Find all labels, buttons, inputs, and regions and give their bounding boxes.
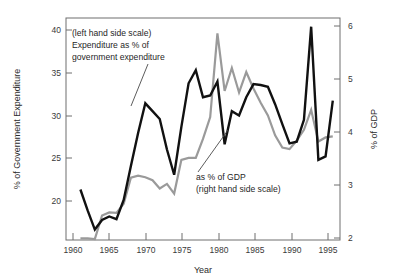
chart-svg: 40 35 30 25 20 6 5 4 3 2 (0, 0, 394, 280)
left-annot-leader-line (131, 64, 148, 106)
x-tick-label-1965: 1965 (100, 245, 119, 255)
series-line-gdp (80, 33, 332, 239)
right-tick-label-4: 4 (348, 127, 353, 137)
left-tick-label-20: 20 (52, 196, 62, 206)
left-annot-line-2: Expenditure as % of (72, 40, 150, 50)
left-scale-annotation: (left hand side scale) Expenditure as % … (72, 28, 165, 106)
right-tick-label-5: 5 (348, 74, 353, 84)
left-tick-label-25: 25 (52, 153, 62, 163)
x-tick-label-1960: 1960 (64, 245, 83, 255)
x-tick-label-1995: 1995 (319, 245, 338, 255)
x-axis-ticks (73, 233, 328, 240)
left-tick-label-40: 40 (52, 25, 62, 35)
right-axis-tick-labels: 6 5 4 3 2 (348, 21, 353, 243)
right-tick-label-6: 6 (348, 21, 353, 31)
right-scale-annotation: as % of GDP (right hand side scale) (196, 130, 281, 194)
right-annot-line-1: as % of GDP (196, 172, 246, 182)
chart-figure: 40 35 30 25 20 6 5 4 3 2 (0, 0, 394, 280)
right-axis-ticks (334, 26, 340, 238)
left-axis-tick-labels: 40 35 30 25 20 (52, 25, 62, 206)
left-annot-line-3: government expenditure (72, 52, 165, 62)
left-tick-label-30: 30 (52, 111, 62, 121)
left-annot-line-1: (left hand side scale) (72, 28, 151, 38)
x-axis-tick-labels: 1960 1965 1970 1975 1980 1985 1990 1995 (64, 245, 338, 255)
x-axis-title: Year (194, 265, 212, 275)
right-tick-label-3: 3 (348, 180, 353, 190)
right-annot-leader-line (198, 130, 228, 172)
left-tick-label-35: 35 (52, 68, 62, 78)
x-tick-label-1980: 1980 (210, 245, 229, 255)
x-tick-label-1990: 1990 (283, 245, 302, 255)
y-axis-right-title: % of GDP (369, 109, 379, 149)
y-axis-left-title: % of Government Expenditure (12, 69, 22, 190)
x-tick-label-1970: 1970 (137, 245, 156, 255)
x-tick-label-1985: 1985 (246, 245, 265, 255)
x-tick-label-1975: 1975 (173, 245, 192, 255)
right-tick-label-2: 2 (348, 233, 353, 243)
right-annot-line-2: (right hand side scale) (196, 184, 281, 194)
